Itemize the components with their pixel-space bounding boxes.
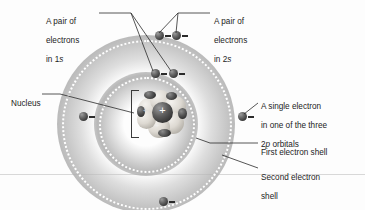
nucleon-shadow <box>158 129 171 137</box>
label-pair-2s-orbital-prefix: in 2 <box>214 55 227 64</box>
atom-diagram-figure: + + + <box>0 0 365 210</box>
label-second-shell-line1: Second electron <box>261 173 361 183</box>
label-pair-1s-line3: in 1s <box>46 55 102 65</box>
label-second-shell-line2: shell <box>261 192 361 202</box>
label-pair-1s-line1: A pair of <box>46 17 102 27</box>
label-single-2p-line1: A single electron <box>261 102 363 112</box>
leader-2s-to-electron-b <box>176 13 178 33</box>
label-single-2p-line2: in one of the three <box>261 121 363 131</box>
electron-2p-bottom <box>159 197 168 206</box>
nucleon-shadow <box>166 92 177 100</box>
label-pair-1s-orbital-prefix: in 1 <box>46 55 59 64</box>
electron-2p-left-charge <box>89 116 95 118</box>
electron-2p-bottom-charge <box>169 201 175 203</box>
label-pair-1s-orbital-letter: s <box>59 55 63 64</box>
electron-2s-a-charge <box>165 35 171 37</box>
nucleus-positive-charge-symbol: + <box>152 105 173 116</box>
electron-2p-right-charge <box>248 116 254 118</box>
electron-1s-b-charge <box>179 73 185 75</box>
label-pair-2s-line2: electrons <box>214 36 274 46</box>
label-second-shell: Second electron shell <box>261 163 361 210</box>
leader-2s-to-electron-a <box>159 13 178 33</box>
electron-2p-left <box>79 112 88 121</box>
electron-2p-right <box>238 112 247 121</box>
nucleon-shadow <box>144 91 156 99</box>
nucleus-cluster: + + + <box>136 88 188 138</box>
electron-2s-b <box>172 31 181 40</box>
nucleon-positive-charge-symbol: + <box>150 122 164 130</box>
label-nucleus-text: Nucleus <box>11 99 51 109</box>
electron-2s-b-charge <box>182 35 188 37</box>
electron-1s-a-charge <box>161 73 167 75</box>
label-pair-2s-line3: in 2s <box>214 55 274 65</box>
leader-2p-to-electron <box>244 103 258 114</box>
nucleon-shadow <box>178 108 187 119</box>
label-pair-1s: A pair of electrons in 1s <box>46 7 102 74</box>
label-pair-1s-line2: electrons <box>46 36 102 46</box>
label-pair-2s-line1: A pair of <box>214 17 274 27</box>
electron-1s-b <box>169 69 178 78</box>
label-pair-2s: A pair of electrons in 2s <box>214 7 274 74</box>
electron-1s-a <box>151 69 160 78</box>
nucleus-bracket <box>131 90 139 138</box>
electron-2s-a <box>155 31 164 40</box>
nucleon-positive-charge-symbol: + <box>139 107 151 114</box>
label-nucleus: Nucleus <box>11 89 51 118</box>
label-pair-2s-orbital-letter: s <box>227 55 231 64</box>
label-first-shell-text: First electron shell <box>261 148 361 158</box>
